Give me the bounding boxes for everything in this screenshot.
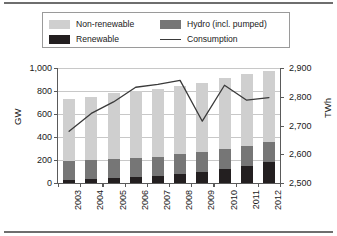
- y-tick-label-left: 1,000: [29, 63, 52, 73]
- x-tick: [102, 183, 103, 187]
- y-tick-right: [280, 154, 284, 155]
- y-tick-right: [280, 126, 284, 127]
- y-tick-label-left: 800: [37, 86, 52, 96]
- consumption-line-series: [58, 68, 280, 183]
- legend-item-non-renewable: Non-renewable: [49, 17, 134, 31]
- legend-swatch-hydro: [160, 20, 181, 29]
- x-tick: [258, 183, 259, 187]
- x-tick-label: 2004: [95, 190, 105, 210]
- legend-swatch-non-renewable: [49, 20, 70, 29]
- x-tick-label: 2008: [184, 190, 194, 210]
- legend-item-renewable: Renewable: [49, 32, 119, 46]
- x-tick: [236, 183, 237, 187]
- x-tick: [125, 183, 126, 187]
- bottom-divider-rule: [4, 231, 333, 233]
- x-tick-label: 2005: [118, 190, 128, 210]
- legend-label-renewable: Renewable: [76, 34, 119, 44]
- x-tick: [169, 183, 170, 187]
- legend-item-hydro: Hydro (incl. pumped): [160, 17, 267, 31]
- legend-label-consumption: Consumption: [187, 34, 238, 44]
- y-tick-label-left: 0: [47, 178, 52, 188]
- y-tick-label-right: 2,800: [289, 92, 312, 102]
- x-tick: [280, 183, 281, 187]
- legend-label-hydro: Hydro (incl. pumped): [187, 19, 267, 29]
- x-tick-label: 2006: [140, 190, 150, 210]
- legend-label-non-renewable: Non-renewable: [76, 19, 134, 29]
- y-tick-right: [280, 97, 284, 98]
- legend-item-consumption: Consumption: [160, 32, 238, 46]
- y-tick-label-left: 600: [37, 109, 52, 119]
- x-tick-label: 2010: [229, 190, 239, 210]
- y-axis-title-left: GW: [12, 109, 23, 125]
- y-tick-label-left: 200: [37, 155, 52, 165]
- x-tick-label: 2003: [73, 190, 83, 210]
- x-tick: [213, 183, 214, 187]
- x-tick: [147, 183, 148, 187]
- y-axis-title-right: TWh: [322, 98, 333, 118]
- y-tick-label-left: 400: [37, 132, 52, 142]
- y-tick-right: [280, 68, 284, 69]
- x-tick-label: 2009: [206, 190, 216, 210]
- y-tick-label-right: 2,700: [289, 121, 312, 131]
- x-tick-label: 2011: [251, 190, 261, 209]
- x-tick: [191, 183, 192, 187]
- legend-swatch-renewable: [49, 35, 70, 44]
- y-tick-label-right: 2,500: [289, 178, 312, 188]
- x-tick-label: 2012: [273, 190, 283, 210]
- y-tick-label-right: 2,600: [289, 149, 312, 159]
- plot-area: 02004006008001,000 2,5002,6002,7002,8002…: [57, 68, 281, 184]
- y-tick-label-right: 2,900: [289, 63, 312, 73]
- x-tick: [58, 183, 59, 187]
- top-divider-rule: [4, 2, 333, 4]
- x-tick-label: 2007: [162, 190, 172, 210]
- x-tick: [80, 183, 81, 187]
- legend-line-marker-consumption: [160, 35, 181, 44]
- chart-figure: Non-renewable Hydro (incl. pumped) Renew…: [0, 0, 337, 236]
- chart-legend: Non-renewable Hydro (incl. pumped) Renew…: [42, 12, 290, 48]
